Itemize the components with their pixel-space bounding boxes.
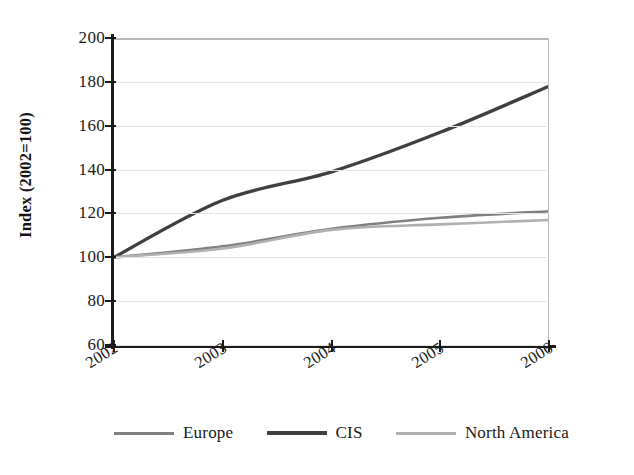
legend-label: North America	[465, 423, 569, 443]
y-axis-tick-mark	[105, 125, 116, 127]
plot-area	[114, 38, 549, 345]
series-line-cis	[114, 86, 549, 257]
series-line-north-america	[114, 220, 549, 257]
y-axis-tick-mark	[105, 212, 116, 214]
y-axis-title: Index (2002=100)	[16, 112, 36, 238]
series-line-europe	[114, 211, 549, 257]
legend-swatch-icon	[396, 432, 456, 435]
gridline	[114, 257, 549, 258]
legend-item-north-america[interactable]: North America	[396, 423, 569, 443]
y-axis-tick-label: 180	[59, 72, 105, 92]
y-axis-tick-label: 140	[59, 160, 105, 180]
gridline	[114, 170, 549, 171]
gridline	[114, 126, 549, 127]
legend-item-europe[interactable]: Europe	[114, 423, 233, 443]
gridline	[114, 213, 549, 214]
y-axis-tick-labels: 2001801601401201008060	[55, 0, 105, 475]
y-axis-tick-label: 100	[59, 247, 105, 267]
plot-frame-right	[548, 38, 550, 345]
legend-label: Europe	[183, 423, 233, 443]
plot-frame-top	[114, 38, 549, 40]
gridline	[114, 82, 549, 83]
chart-legend: EuropeCISNorth America	[114, 418, 569, 448]
y-axis-tick-mark	[105, 37, 116, 39]
y-axis-tick-label: 120	[59, 203, 105, 223]
series-lines	[114, 38, 549, 345]
legend-item-cis[interactable]: CIS	[267, 423, 363, 443]
gridline	[114, 301, 549, 302]
legend-swatch-icon	[114, 432, 174, 435]
y-axis-tick-mark	[105, 300, 116, 302]
legend-label: CIS	[336, 423, 363, 443]
y-axis-tick-label: 80	[59, 291, 105, 311]
y-axis-title-container: Index (2002=100)	[0, 0, 52, 350]
y-axis-tick-label: 160	[59, 116, 105, 136]
y-axis-tick-mark	[105, 169, 116, 171]
y-axis-tick-mark	[105, 256, 116, 258]
legend-swatch-icon	[267, 431, 327, 435]
y-axis-tick-mark	[105, 81, 116, 83]
line-chart-figure: Index (2002=100) 2001801601401201008060 …	[0, 0, 634, 475]
y-axis-tick-label: 200	[59, 28, 105, 48]
